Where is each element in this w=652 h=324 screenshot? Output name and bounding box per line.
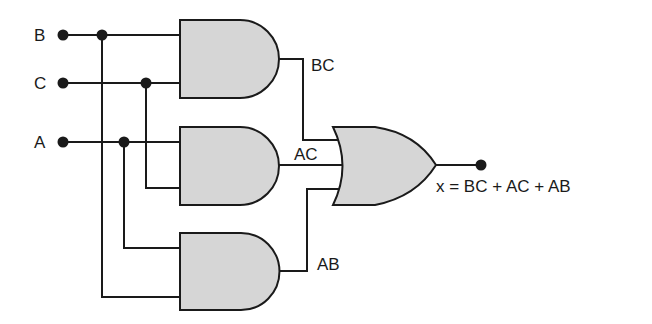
logic-circuit-diagram: B C A BC AC AB x = BC + AC + AB bbox=[0, 0, 652, 324]
junction-c bbox=[141, 78, 152, 89]
junction-b bbox=[97, 30, 108, 41]
input-label-a: A bbox=[34, 134, 45, 151]
and-gate-bc bbox=[180, 20, 279, 98]
and-gate-ab bbox=[180, 233, 279, 310]
output-label-ab: AB bbox=[317, 256, 340, 273]
circuit-canvas bbox=[0, 0, 652, 324]
and-gate-ac bbox=[180, 127, 279, 205]
wire-c-to-and2 bbox=[146, 83, 180, 188]
output-x-terminal bbox=[476, 160, 487, 171]
or-gate bbox=[333, 127, 436, 205]
junction-a bbox=[119, 137, 130, 148]
input-b-terminal bbox=[58, 30, 69, 41]
output-label-bc: BC bbox=[311, 57, 335, 74]
input-label-c: C bbox=[34, 75, 46, 92]
wire-b-to-and3 bbox=[102, 35, 180, 297]
input-c-terminal bbox=[58, 78, 69, 89]
output-expression: x = BC + AC + AB bbox=[436, 178, 571, 195]
output-label-ac: AC bbox=[294, 146, 318, 163]
input-label-b: B bbox=[34, 27, 45, 44]
input-a-terminal bbox=[58, 137, 69, 148]
input-wires bbox=[63, 35, 180, 297]
wire-a-to-and3 bbox=[124, 142, 180, 248]
